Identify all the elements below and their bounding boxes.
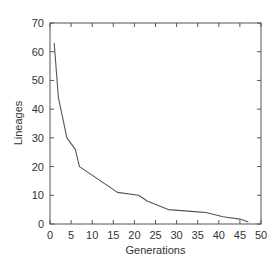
plot-frame xyxy=(50,23,261,224)
x-tick-label: 30 xyxy=(170,229,182,241)
y-tick-label: 40 xyxy=(32,103,44,115)
y-axis-ticks: 010203040506070 xyxy=(32,17,261,230)
series-line xyxy=(54,43,248,222)
y-axis-label: Lineages xyxy=(12,100,24,145)
x-tick-label: 10 xyxy=(86,229,98,241)
x-axis-ticks: 05101520253035404550 xyxy=(47,23,267,241)
x-tick-label: 15 xyxy=(107,229,119,241)
y-tick-label: 50 xyxy=(32,74,44,86)
x-tick-label: 5 xyxy=(68,229,74,241)
x-tick-label: 25 xyxy=(149,229,161,241)
y-tick-label: 60 xyxy=(32,46,44,58)
y-tick-label: 30 xyxy=(32,132,44,144)
data-series xyxy=(54,43,248,222)
x-tick-label: 50 xyxy=(255,229,267,241)
x-tick-label: 40 xyxy=(213,229,225,241)
x-tick-label: 35 xyxy=(192,229,204,241)
y-tick-label: 70 xyxy=(32,17,44,29)
x-tick-label: 20 xyxy=(128,229,140,241)
x-tick-label: 45 xyxy=(234,229,246,241)
lineages-chart: 05101520253035404550 010203040506070 Gen… xyxy=(0,0,280,265)
y-tick-label: 10 xyxy=(32,189,44,201)
x-axis-label: Generations xyxy=(126,244,186,256)
y-tick-label: 0 xyxy=(38,218,44,230)
y-tick-label: 20 xyxy=(32,161,44,173)
x-tick-label: 0 xyxy=(47,229,53,241)
plot-border xyxy=(50,23,261,224)
